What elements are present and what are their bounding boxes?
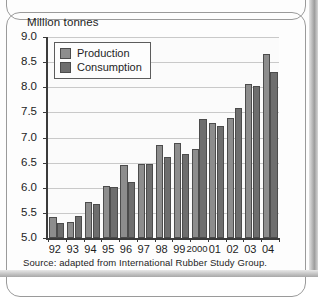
bar-consumption-94 — [93, 204, 100, 238]
y-axis-tick-label: 8.0 — [21, 80, 37, 92]
x-axis-tick-mark — [261, 238, 262, 242]
page-edge-shadow-bottom — [0, 270, 318, 277]
bar-group — [208, 37, 226, 238]
x-axis-tick-label-99: 99 — [173, 243, 185, 255]
bar-production-98 — [156, 145, 163, 238]
y-axis-tick-label: 7.5 — [21, 105, 37, 117]
bar-production-97 — [138, 164, 145, 238]
source-note: Source: adapted from International Rubbe… — [23, 257, 267, 268]
bar-consumption-93 — [75, 216, 82, 238]
bar-consumption-01 — [217, 126, 224, 238]
y-axis-tick-label: 5.5 — [21, 206, 37, 218]
x-axis-tick-mark — [84, 238, 85, 242]
bar-consumption-99 — [182, 154, 189, 238]
x-axis-tick-label-2000: 2000 — [186, 243, 207, 254]
legend-item-production: Production — [60, 46, 142, 60]
bar-group — [155, 37, 173, 238]
x-axis-tick-label-92: 92 — [49, 243, 61, 255]
bar-production-04 — [263, 54, 270, 238]
legend-label-production: Production — [77, 47, 130, 59]
bar-consumption-02 — [235, 108, 242, 238]
bar-consumption-95 — [110, 187, 117, 238]
page-edge-shadow-right — [309, 0, 318, 277]
x-axis-tick-mark — [208, 238, 209, 242]
x-axis-tick-label-95: 95 — [102, 243, 114, 255]
y-axis-title: Million tonnes — [27, 16, 99, 28]
x-axis-tick-mark — [155, 238, 156, 242]
bar-production-99 — [174, 143, 181, 238]
x-axis-tick-mark — [119, 238, 120, 242]
x-axis-tick-mark — [279, 238, 280, 242]
chart-legend: Production Consumption — [54, 42, 151, 79]
y-axis-tick-label: 5.0 — [21, 231, 37, 243]
bar-consumption-98 — [164, 157, 171, 238]
bar-group — [243, 37, 261, 238]
bar-production-02 — [227, 118, 234, 238]
x-axis-tick-mark — [66, 238, 67, 242]
bar-consumption-03 — [253, 86, 260, 238]
x-axis-tick-mark — [226, 238, 227, 242]
x-axis-tick-mark — [101, 238, 102, 242]
x-axis-tick-mark — [243, 238, 244, 242]
bar-production-03 — [245, 84, 252, 238]
bar-production-93 — [67, 222, 74, 238]
y-axis-tick-label: 6.5 — [21, 156, 37, 168]
bar-group — [226, 37, 244, 238]
x-axis-tick-label-93: 93 — [67, 243, 79, 255]
x-axis-tick-label-04: 04 — [262, 243, 274, 255]
x-axis-tick-mark — [190, 238, 191, 242]
x-axis-tick-label-94: 94 — [84, 243, 96, 255]
bar-consumption-96 — [128, 182, 135, 238]
bar-production-2000 — [192, 149, 199, 238]
x-axis-tick-label-03: 03 — [244, 243, 256, 255]
legend-swatch-consumption-icon — [60, 62, 71, 73]
y-axis-tick-label: 8.5 — [21, 55, 37, 67]
x-axis-tick-label-02: 02 — [226, 243, 238, 255]
y-axis-tick-label: 7.0 — [21, 131, 37, 143]
x-axis-tick-label-96: 96 — [120, 243, 132, 255]
x-axis-tick-mark — [48, 238, 49, 242]
bar-production-94 — [85, 202, 92, 238]
bar-consumption-04 — [270, 72, 277, 238]
legend-item-consumption: Consumption — [60, 60, 142, 74]
x-axis-tick-label-97: 97 — [138, 243, 150, 255]
bar-group — [172, 37, 190, 238]
bar-production-95 — [103, 186, 110, 238]
bar-production-96 — [120, 165, 127, 238]
bar-group — [190, 37, 208, 238]
x-axis-tick-label-98: 98 — [155, 243, 167, 255]
bar-production-92 — [49, 217, 56, 238]
bar-production-01 — [209, 123, 216, 238]
y-axis-tick-label: 9.0 — [21, 30, 37, 42]
bar-consumption-2000 — [199, 119, 206, 238]
x-axis-tick-mark — [172, 238, 173, 242]
legend-swatch-production-icon — [60, 48, 71, 59]
legend-label-consumption: Consumption — [77, 61, 142, 73]
bar-group — [261, 37, 279, 238]
y-axis-tick-label: 6.0 — [21, 181, 37, 193]
bar-consumption-92 — [57, 223, 64, 238]
x-axis-tick-mark — [137, 238, 138, 242]
bar-consumption-97 — [146, 164, 153, 238]
x-axis-tick-label-01: 01 — [209, 243, 221, 255]
